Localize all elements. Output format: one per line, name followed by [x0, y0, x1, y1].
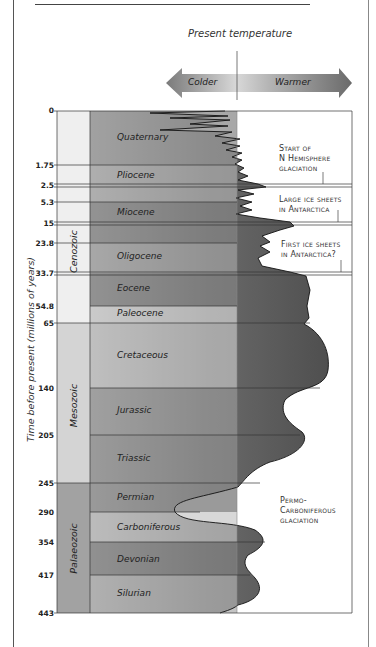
period-quaternary: Quaternary: [117, 132, 168, 142]
tick-label: 23.8: [14, 239, 54, 248]
period-pliocene: Pliocene: [117, 170, 155, 180]
tick-label: 140: [14, 384, 54, 393]
tick-label: 54.8: [14, 302, 54, 311]
period-cretaceous: Cretaceous: [117, 350, 168, 360]
annotation-permo-carboniferous: Permo- Carboniferous glaciation: [280, 496, 336, 526]
tick-label: 1.75: [14, 161, 54, 170]
warmer-label: Warmer: [275, 77, 311, 87]
annotation-first-ice-sheets: First ice sheets in Antarctica?: [281, 240, 340, 260]
tick-label: 245: [14, 479, 54, 488]
period-triassic: Triassic: [117, 453, 150, 463]
annotation-large-ice-sheets: Large ice sheets in Antarctica: [279, 195, 342, 215]
period-eocene: Eocene: [117, 283, 150, 293]
tick-label: 5.3: [14, 198, 54, 207]
annotation-n-hemisphere-glaciation: Start of N Hemisphere glaciation: [279, 144, 330, 174]
period-devonian: Devonian: [117, 554, 160, 564]
tick-label: 290: [14, 508, 54, 517]
era-palaeozoic: Palaeozoic: [68, 509, 79, 589]
temperature-arrow: [166, 51, 352, 100]
period-permian: Permian: [117, 492, 154, 502]
period-jurassic: Jurassic: [117, 405, 151, 415]
colder-label: Colder: [188, 77, 217, 87]
tick-label: 354: [14, 538, 54, 547]
tick-label: 417: [14, 571, 54, 580]
period-paleocene: Paleocene: [117, 308, 163, 318]
period-oligocene: Oligocene: [117, 251, 162, 261]
period-carboniferous: Carboniferous: [117, 522, 180, 532]
geologic-temperature-diagram: [0, 0, 376, 647]
tick-label: 205: [14, 431, 54, 440]
era-mesozoic: Mesozoic: [68, 366, 79, 446]
tick-label: 0: [14, 106, 54, 115]
period-silurian: Silurian: [117, 588, 151, 598]
tick-label: 15: [14, 219, 54, 228]
era-cenozoic: Cenozoic: [68, 212, 79, 292]
tick-label: 65: [14, 319, 54, 328]
period-miocene: Miocene: [117, 207, 155, 217]
tick-label: 443: [14, 609, 54, 618]
tick-label: 2.5: [14, 181, 54, 190]
tick-label: 33.7: [14, 269, 54, 278]
